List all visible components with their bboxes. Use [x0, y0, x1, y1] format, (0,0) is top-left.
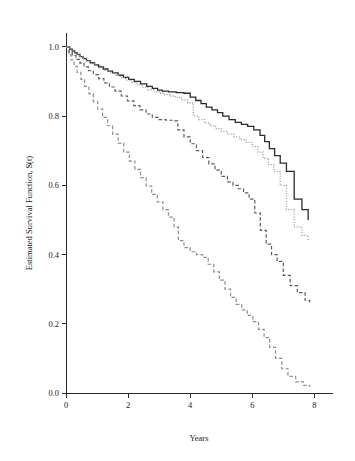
- x-axis-title: Years: [190, 433, 209, 443]
- survival-curve-figure: 0.00.20.40.60.81.0 02468 Years Estimated…: [0, 0, 355, 461]
- y-tick-label: 0.8: [48, 111, 59, 121]
- y-tick-label: 0.4: [48, 250, 59, 260]
- x-tick-label: 4: [188, 400, 193, 410]
- y-tick-label: 1.0: [48, 42, 59, 52]
- x-tick-label: 0: [64, 400, 68, 410]
- x-tick-label: 8: [312, 400, 316, 410]
- y-tick-label: 0.6: [48, 180, 59, 190]
- y-axis-title: Estimated Survival Function, S(t): [24, 156, 34, 270]
- x-tick-label: 2: [126, 400, 130, 410]
- y-tick-label: 0.0: [48, 388, 59, 398]
- chart-canvas: 0.00.20.40.60.81.0 02468 Years Estimated…: [0, 0, 355, 461]
- x-tick-label: 6: [250, 400, 254, 410]
- y-tick-label: 0.2: [48, 319, 59, 329]
